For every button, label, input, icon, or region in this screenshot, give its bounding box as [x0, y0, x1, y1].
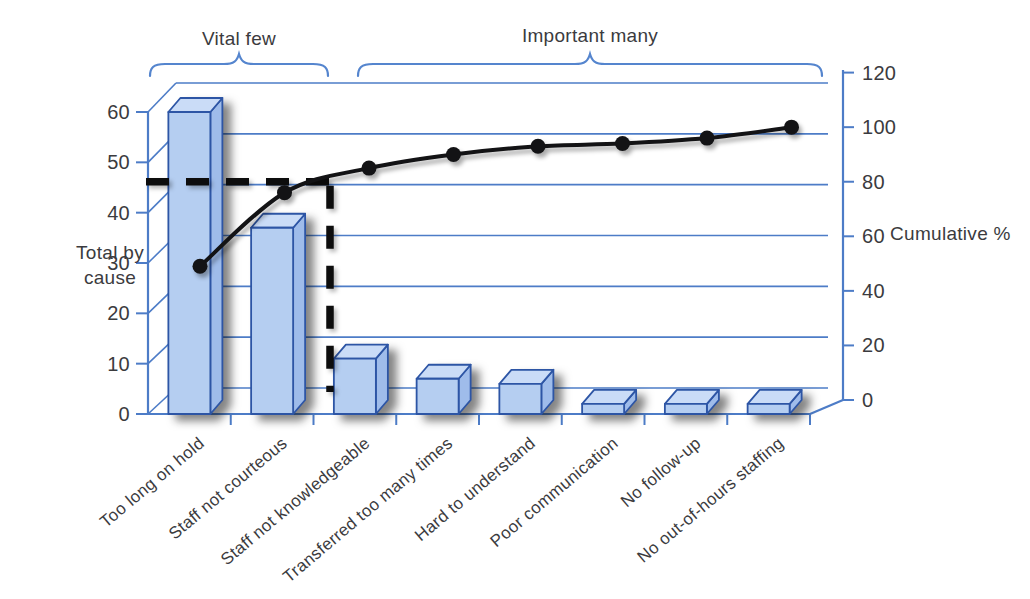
baseline-depth-corner — [810, 400, 843, 414]
bar-front — [334, 359, 376, 414]
cumulative-dot — [362, 161, 377, 176]
right-tick-label: 60 — [862, 225, 885, 247]
bar-group — [334, 345, 388, 414]
page: 0102030405060 020406080100120 Too long o… — [0, 0, 1030, 599]
cumulative-dot — [193, 259, 208, 274]
left-tick-label: 0 — [119, 403, 130, 425]
left-tick-label: 10 — [107, 353, 130, 375]
right-tick-label: 0 — [862, 389, 873, 411]
bar-front — [665, 404, 707, 414]
bar-front — [582, 404, 624, 414]
bar-group — [417, 365, 471, 414]
important-many-brace — [358, 54, 822, 76]
bar-group — [748, 390, 802, 414]
cumulative-dot — [446, 147, 461, 162]
bar-group — [251, 214, 305, 414]
cumulative-dot — [784, 120, 799, 135]
left-axis-title-line1: Total by — [76, 242, 144, 263]
bar-group — [665, 390, 719, 414]
right-tick-label: 80 — [862, 171, 885, 193]
braces-layer — [150, 54, 822, 76]
right-axis-title: Cumulative % — [890, 223, 1011, 244]
right-tick-label: 100 — [862, 116, 896, 138]
left-tick-label: 40 — [107, 202, 130, 224]
right-tick-label: 40 — [862, 280, 885, 302]
category-label: No follow-up — [617, 434, 704, 512]
cumulative-dot — [531, 139, 546, 154]
bar-group — [582, 390, 636, 414]
cumulative-dot — [615, 136, 630, 151]
vital-few-label: Vital few — [202, 28, 276, 49]
bar-group — [168, 98, 222, 414]
bar-front — [748, 404, 790, 414]
right-tick-label: 120 — [862, 62, 896, 84]
bar-front — [499, 384, 541, 414]
bar-front — [417, 379, 459, 414]
right-axis-layer: 020406080100120 — [843, 62, 896, 411]
left-tick-label: 50 — [107, 151, 130, 173]
category-labels-layer: Too long on holdStaff not courteousStaff… — [96, 434, 787, 587]
vital-few-brace — [150, 54, 328, 76]
cumulative-dot — [277, 185, 292, 200]
category-label: No out-of-hours staffing — [634, 434, 788, 567]
category-label: Transferred too many times — [279, 434, 456, 587]
bar-side — [293, 214, 305, 414]
important-many-label: Important many — [522, 25, 658, 46]
category-label: Staff not knowledgeable — [217, 434, 373, 569]
cumulative-dot — [700, 131, 715, 146]
left-tick-label: 60 — [107, 101, 130, 123]
bar-group — [499, 370, 553, 414]
pareto-chart: 0102030405060 020406080100120 Too long o… — [0, 0, 1030, 599]
bar-front — [251, 228, 293, 414]
left-tick-label: 20 — [107, 302, 130, 324]
right-tick-label: 20 — [862, 334, 885, 356]
left-axis-title-line2: cause — [84, 267, 136, 288]
